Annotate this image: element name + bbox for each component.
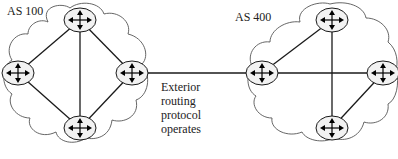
- router-icon: [316, 116, 348, 140]
- note-line: Exterior: [161, 80, 201, 94]
- router-icon: [116, 61, 148, 85]
- router-icon: [246, 61, 278, 85]
- as100-label: AS 100: [7, 5, 43, 18]
- note-line: routing: [161, 94, 201, 108]
- router-icon: [64, 116, 96, 140]
- exterior-protocol-note: Exterior routing protocol operates: [161, 80, 201, 136]
- router-icon: [2, 61, 34, 85]
- router-icon: [64, 8, 96, 32]
- note-line: protocol: [161, 108, 201, 122]
- note-line: operates: [161, 122, 201, 136]
- router-icon: [316, 8, 348, 32]
- router-icon: [367, 61, 398, 85]
- as400-label: AS 400: [235, 11, 271, 24]
